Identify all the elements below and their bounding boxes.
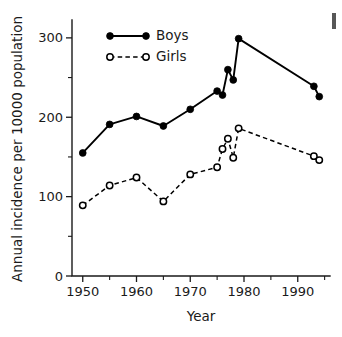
chart-figure: 010020030019501960197019801990YearAnnual… xyxy=(0,0,342,337)
data-point-girls xyxy=(316,157,322,163)
data-point-boys xyxy=(230,77,237,84)
x-tick-label: 1990 xyxy=(281,284,314,299)
x-tick-label: 1970 xyxy=(174,284,207,299)
edge-crop-artifact xyxy=(332,13,336,29)
data-point-boys xyxy=(219,92,226,99)
series-line-boys xyxy=(83,39,320,153)
data-point-girls xyxy=(235,125,241,131)
data-point-girls xyxy=(106,182,112,188)
x-tick-label: 1960 xyxy=(120,284,153,299)
data-point-boys xyxy=(106,121,113,128)
data-point-boys xyxy=(160,123,167,130)
legend-marker-girls xyxy=(107,54,113,60)
y-tick-label: 0 xyxy=(55,269,63,284)
legend-marker-girls xyxy=(143,54,149,60)
data-point-girls xyxy=(160,198,166,204)
x-tick-label: 1980 xyxy=(227,284,260,299)
data-point-girls xyxy=(225,135,231,141)
data-point-girls xyxy=(214,164,220,170)
data-point-girls xyxy=(80,202,86,208)
y-tick-label: 100 xyxy=(38,189,63,204)
data-point-boys xyxy=(133,113,140,120)
data-point-girls xyxy=(230,155,236,161)
y-tick-label: 300 xyxy=(38,30,63,45)
x-tick-label: 1950 xyxy=(66,284,99,299)
incidence-line-chart: 010020030019501960197019801990YearAnnual… xyxy=(0,0,342,337)
x-axis-title: Year xyxy=(186,308,216,324)
legend-label-girls: Girls xyxy=(156,48,187,64)
data-point-boys xyxy=(316,93,323,100)
data-point-boys xyxy=(310,83,317,90)
y-axis-title: Annual incidence per 10000 population xyxy=(9,16,25,282)
series-line-girls xyxy=(83,128,320,205)
data-point-boys xyxy=(187,106,194,113)
data-point-boys xyxy=(224,66,231,73)
legend-label-boys: Boys xyxy=(156,27,189,43)
data-point-boys xyxy=(79,150,86,157)
data-point-girls xyxy=(187,171,193,177)
legend-marker-boys xyxy=(143,33,150,40)
data-point-boys xyxy=(235,35,242,42)
data-point-girls xyxy=(219,146,225,152)
y-tick-label: 200 xyxy=(38,110,63,125)
data-point-girls xyxy=(133,174,139,180)
legend-marker-boys xyxy=(107,33,114,40)
